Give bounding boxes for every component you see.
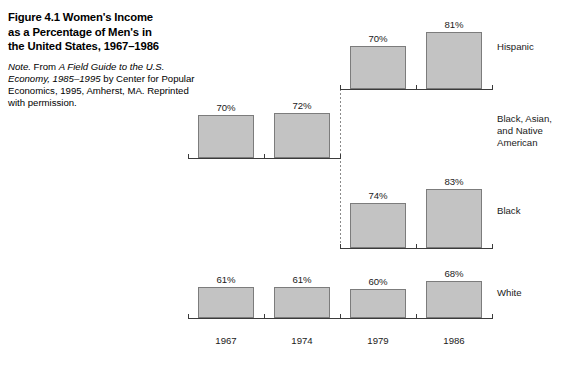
axis-tick-white-1979 [340, 314, 341, 319]
bar-label-ban-1974: 72% [274, 100, 330, 111]
panel-divider-dashed-line [340, 89, 341, 249]
axis-tick-ban-1974 [264, 154, 265, 159]
bar-hispanic-1979[interactable] [350, 46, 406, 89]
axis-tick-black-end [492, 244, 493, 249]
bar-white-1974[interactable] [274, 287, 330, 318]
bar-label-black-1979: 74% [350, 190, 406, 201]
axis-tick-white-1986 [416, 314, 417, 319]
bar-white-1967[interactable] [198, 287, 254, 318]
bar-white-1979[interactable] [350, 289, 406, 318]
chart-plot-area: 70% 81% Hispanic 70% 72% Black, Asian, a… [0, 0, 571, 368]
bar-ban-1974[interactable] [274, 113, 330, 158]
year-label-1974: 1974 [274, 335, 330, 346]
row-label-black: Black [497, 205, 520, 217]
axis-tick-white-start [188, 314, 189, 319]
row-label-hispanic: Hispanic [497, 41, 534, 53]
bar-label-ban-1967: 70% [198, 102, 254, 113]
bar-ban-1967[interactable] [198, 115, 254, 158]
figure-root: Figure 4.1 Women's Income as a Percentag… [0, 0, 571, 368]
bar-black-1979[interactable] [350, 203, 406, 248]
bar-label-white-1979: 60% [350, 276, 406, 287]
bar-label-white-1986: 68% [426, 268, 482, 279]
bar-label-white-1967: 61% [198, 274, 254, 285]
axis-tick-white-end [492, 314, 493, 319]
bar-white-1986[interactable] [426, 281, 482, 318]
row-label-black-asian-native: Black, Asian, and Native American [497, 113, 552, 150]
axis-tick-ban-end [340, 154, 341, 159]
axis-tick-white-1974 [264, 314, 265, 319]
axis-tick-ban-start [188, 154, 189, 159]
bar-label-hispanic-1979: 70% [350, 33, 406, 44]
axis-tick-hispanic-end [492, 85, 493, 90]
axis-tick-hispanic-1986 [416, 85, 417, 90]
row-label-white: White [497, 287, 522, 299]
year-label-1967: 1967 [198, 335, 254, 346]
bar-label-white-1974: 61% [274, 274, 330, 285]
axis-tick-hispanic-start [340, 85, 341, 90]
bar-label-black-1986: 83% [426, 176, 482, 187]
year-label-1986: 1986 [426, 335, 482, 346]
axis-tick-black-1986 [416, 244, 417, 249]
year-label-1979: 1979 [350, 335, 406, 346]
bar-hispanic-1986[interactable] [426, 32, 482, 89]
axis-tick-black-start [340, 244, 341, 249]
bar-black-1986[interactable] [426, 189, 482, 248]
bar-label-hispanic-1986: 81% [426, 19, 482, 30]
